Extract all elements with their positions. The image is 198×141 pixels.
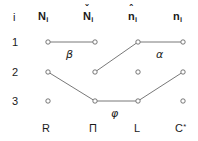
node-c1r1[interactable] <box>46 40 50 44</box>
node-c2r1[interactable] <box>93 40 97 44</box>
node-c3r2[interactable] <box>136 70 140 74</box>
footer-label-2-text: Π <box>89 122 97 134</box>
lattice-graph <box>0 0 198 141</box>
footer-label-4-text: C <box>175 122 183 134</box>
footer-label-1-text: R <box>42 122 50 134</box>
node-c1r2[interactable] <box>46 70 50 74</box>
footer-label-1: R <box>42 123 50 134</box>
edge-label-alpha: α <box>156 49 163 60</box>
edge-c2r2-c3r1 <box>97 43 136 70</box>
edge-c3r3-c4r2 <box>140 73 181 100</box>
node-c3r1[interactable] <box>136 40 140 44</box>
footer-label-2: Π <box>89 123 97 134</box>
figure-canvas: i N i N ˇ i n ˆ i n i 1 2 3 β α φ R <box>0 0 198 141</box>
footer-label-4-superscript: * <box>183 122 186 131</box>
node-c4r2[interactable] <box>181 70 185 74</box>
node-c2r3[interactable] <box>93 99 97 103</box>
node-c4r3[interactable] <box>181 99 185 103</box>
edge-label-beta: β <box>66 49 73 60</box>
node-c4r1[interactable] <box>181 40 185 44</box>
edge-c1r2-c2r3 <box>50 73 93 100</box>
footer-label-3: L <box>134 123 140 134</box>
footer-label-3-text: L <box>134 122 140 134</box>
footer-label-4: C* <box>175 123 186 134</box>
node-c1r3[interactable] <box>46 99 50 103</box>
node-c3r3[interactable] <box>136 99 140 103</box>
edge-label-phi: φ <box>111 108 118 119</box>
node-c2r2[interactable] <box>93 70 97 74</box>
